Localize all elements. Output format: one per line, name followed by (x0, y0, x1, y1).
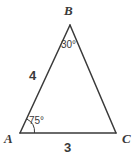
side-length-label-ac: 3 (64, 141, 71, 154)
vertex-label-b: B (64, 4, 73, 17)
triangle-drawing (0, 0, 137, 159)
vertex-label-c: C (122, 132, 131, 145)
angle-measure-label-a: 75° (29, 116, 44, 126)
side-length-label-ab: 4 (29, 69, 36, 82)
vertex-label-a: A (4, 132, 13, 145)
side-bc-line (70, 25, 116, 133)
geometry-figure: B A C 4 3 30° 75° (0, 0, 137, 159)
angle-measure-label-b: 30° (61, 40, 76, 50)
